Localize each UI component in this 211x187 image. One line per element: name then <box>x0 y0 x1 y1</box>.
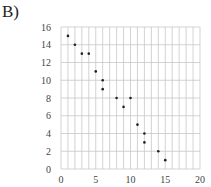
x-tick-label: 20 <box>195 174 205 185</box>
y-tick-label: 16 <box>41 22 51 33</box>
y-tick-label: 2 <box>46 146 51 157</box>
y-tick-label: 14 <box>41 39 51 50</box>
y-axis-ticks: 0246810121416 <box>41 22 51 175</box>
x-tick-label: 5 <box>93 174 98 185</box>
x-axis-ticks: 05101520 <box>59 174 206 185</box>
data-point <box>143 132 146 135</box>
data-point <box>157 150 160 153</box>
data-point <box>88 52 91 55</box>
x-tick-label: 10 <box>126 174 136 185</box>
data-point <box>129 97 132 100</box>
y-tick-label: 12 <box>41 57 51 68</box>
data-point <box>122 106 125 109</box>
data-point <box>101 79 104 82</box>
data-point <box>81 52 84 55</box>
data-point <box>74 43 77 46</box>
data-point <box>94 70 97 73</box>
y-tick-label: 6 <box>46 110 51 121</box>
y-tick-label: 8 <box>46 93 51 104</box>
data-point <box>67 35 70 38</box>
data-point <box>136 123 139 126</box>
scatter-plot: 0246810121416 05101520 <box>0 0 211 187</box>
data-point <box>143 141 146 144</box>
data-point <box>101 88 104 91</box>
data-point <box>164 159 167 162</box>
y-tick-label: 0 <box>46 164 51 175</box>
x-tick-label: 0 <box>59 174 64 185</box>
y-tick-label: 10 <box>41 75 51 86</box>
data-point <box>115 97 118 100</box>
x-tick-label: 15 <box>160 174 170 185</box>
y-tick-label: 4 <box>46 128 51 139</box>
